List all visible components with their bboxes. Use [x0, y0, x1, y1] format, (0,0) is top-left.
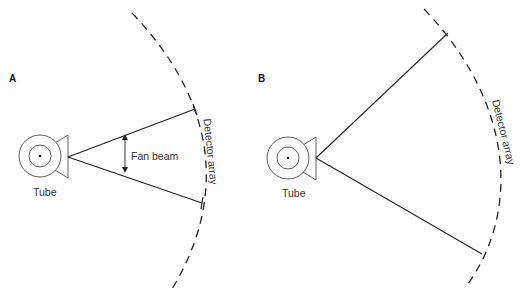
- tube-icon: [267, 137, 316, 180]
- detector-array-arc: [424, 9, 501, 288]
- panel-a: A Tube Fan beam Detector array: [9, 13, 220, 289]
- tube-label: Tube: [282, 187, 306, 199]
- fan-beam-lines: [316, 33, 482, 254]
- tube-label: Tube: [33, 186, 57, 198]
- detector-array-label: Detector array: [490, 98, 518, 166]
- panel-b: B Tube Detector array: [258, 9, 518, 288]
- diagram-canvas: A Tube Fan beam Detector array B: [0, 0, 522, 300]
- tube-icon: [19, 135, 68, 178]
- panel-a-label: A: [9, 73, 16, 84]
- fan-beam-label: Fan beam: [131, 150, 179, 162]
- panel-b-label: B: [258, 73, 265, 84]
